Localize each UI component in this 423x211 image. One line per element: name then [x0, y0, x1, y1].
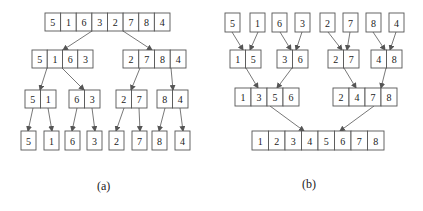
a-arrow-1: [123, 31, 152, 50]
cell-value: 5: [273, 92, 278, 103]
cell-value: 2: [339, 92, 344, 103]
cell-value: 8: [392, 54, 397, 65]
cell-value: 5: [324, 136, 329, 147]
cell-value: 4: [394, 18, 399, 29]
b-array-L0-3: 3: [295, 13, 310, 32]
cell-value: 8: [373, 136, 378, 147]
a-arrow-13: [180, 108, 183, 131]
merge-tree-b: 51632784153627481356247812345678: [225, 13, 404, 150]
b-arrow-9: [277, 68, 292, 88]
a-array-L2-0: 51: [25, 90, 56, 108]
a-arrow-2: [40, 68, 47, 90]
cell-value: 3: [257, 92, 262, 103]
cell-value: 1: [241, 92, 246, 103]
cell-value: 4: [180, 136, 185, 147]
b-array-L1-2: 27: [328, 50, 359, 68]
cell-value: 2: [121, 94, 126, 105]
cell-value: 5: [50, 17, 55, 28]
a-arrow-6: [28, 108, 33, 131]
a-array-L3-3: 3: [87, 131, 102, 150]
cell-value: 3: [300, 18, 305, 29]
b-array-L1-1: 36: [277, 50, 308, 68]
b-array-L0-1: 1: [250, 13, 265, 32]
cell-value: 8: [371, 18, 376, 29]
cell-value: 8: [144, 17, 149, 28]
b-arrow-6: [373, 32, 385, 50]
cell-value: 5: [37, 54, 42, 65]
cell-value: 8: [162, 94, 167, 105]
cell-value: 1: [235, 54, 240, 65]
cell-value: 6: [68, 54, 73, 65]
a-arrow-9: [92, 108, 95, 131]
cell-value: 5: [251, 54, 256, 65]
b-array-L1-3: 48: [371, 50, 402, 68]
b-array-L2-0: 1356: [235, 88, 299, 106]
cell-value: 1: [52, 54, 57, 65]
cell-value: 4: [178, 94, 183, 105]
a-array-L2-1: 63: [69, 90, 100, 108]
cell-value: 3: [291, 136, 296, 147]
cell-value: 1: [49, 136, 54, 147]
cell-value: 4: [160, 17, 165, 28]
merge-sort-diagram: 51632784516327845163278451632784 5163278…: [0, 0, 423, 211]
merge-sort-figure: 51632784516327845163278451632784 5163278…: [0, 0, 423, 211]
cell-value: 3: [92, 136, 97, 147]
a-arrow-8: [72, 108, 77, 131]
cell-value: 4: [307, 136, 312, 147]
a-array-L2-2: 27: [116, 90, 147, 108]
cell-value: 7: [371, 92, 376, 103]
a-arrow-0: [63, 31, 92, 50]
cell-value: 4: [355, 92, 360, 103]
a-array-L3-0: 5: [21, 131, 36, 150]
cell-value: 3: [90, 94, 95, 105]
caption-a: (a): [97, 179, 110, 194]
a-arrow-11: [139, 108, 140, 131]
b-array-L0-4: 2: [320, 13, 335, 32]
cell-value: 7: [349, 54, 354, 65]
cell-value: 5: [26, 136, 31, 147]
cell-value: 2: [114, 136, 119, 147]
cell-value: 3: [83, 54, 88, 65]
caption-b: (b): [302, 177, 316, 192]
b-array-L2-1: 2478: [333, 88, 397, 106]
cell-value: 7: [348, 18, 353, 29]
a-arrow-10: [116, 108, 124, 131]
b-array-L1-0: 15: [230, 50, 261, 68]
b-arrow-2: [280, 32, 291, 50]
b-array-L0-7: 4: [389, 13, 404, 32]
b-arrow-7: [390, 32, 396, 50]
cell-value: 7: [144, 54, 149, 65]
a-array-L3-6: 8: [152, 131, 167, 150]
cell-value: 1: [46, 94, 51, 105]
cell-value: 6: [289, 92, 294, 103]
cell-value: 6: [277, 18, 282, 29]
cell-value: 1: [255, 18, 260, 29]
split-tree-a: 51632784516327845163278451632784: [21, 13, 190, 150]
cell-value: 4: [376, 54, 381, 65]
a-array-L3-2: 6: [65, 131, 80, 150]
cell-value: 1: [258, 136, 263, 147]
b-arrow-4: [328, 32, 342, 50]
cell-value: 7: [137, 136, 142, 147]
b-arrow-13: [340, 106, 374, 131]
cell-value: 6: [340, 136, 345, 147]
a-array-L0-0: 51632784: [45, 13, 170, 31]
cell-value: 6: [74, 94, 79, 105]
a-array-L3-5: 7: [132, 131, 147, 150]
cell-value: 7: [357, 136, 362, 147]
b-array-L0-6: 8: [366, 13, 381, 32]
b-arrow-8: [246, 68, 258, 88]
cell-value: 3: [282, 54, 287, 65]
cell-value: 1: [66, 17, 71, 28]
a-array-L3-7: 4: [175, 131, 190, 150]
b-array-L0-0: 5: [225, 13, 240, 32]
a-array-L3-1: 1: [44, 131, 59, 150]
cell-value: 7: [128, 17, 133, 28]
cell-value: 2: [128, 54, 133, 65]
cell-value: 7: [137, 94, 142, 105]
cell-value: 8: [157, 136, 162, 147]
a-array-L3-4: 2: [109, 131, 124, 150]
b-arrow-12: [270, 106, 304, 131]
b-array-L0-5: 7: [343, 13, 358, 32]
a-array-L1-1: 2784: [123, 50, 186, 68]
